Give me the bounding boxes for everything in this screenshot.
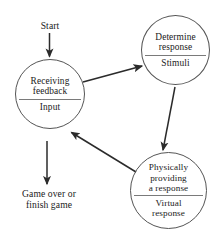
- diagram-canvas: Start Receiving feedback Input Determine…: [0, 0, 224, 248]
- arrow-receiving-to-determine: [83, 66, 142, 82]
- node-receiving-feedback-title-line1: Receiving: [16, 76, 84, 87]
- node-receiving-feedback-title-line2: feedback: [16, 86, 84, 97]
- node-determine-response[interactable]: Determine response Stimuli: [141, 15, 210, 85]
- node-determine-response-title-line2: response: [142, 42, 209, 53]
- node-receiving-feedback-divider: [19, 99, 81, 100]
- node-physically-providing-a-response[interactable]: Physically providing a response Virtual …: [130, 152, 207, 229]
- node-physical-response-title-line2: providing: [131, 173, 206, 183]
- node-physical-response-title-line1: Physically: [131, 162, 206, 172]
- node-determine-response-title: Determine response: [142, 32, 209, 54]
- node-physical-response-subtitle-line1: Virtual: [131, 198, 206, 208]
- node-physical-response-title: Physically providing a response: [131, 162, 206, 194]
- label-start: Start: [20, 20, 80, 31]
- node-physical-response-divider: [134, 195, 203, 196]
- node-receiving-feedback-subtitle: Input: [16, 101, 84, 113]
- node-determine-response-divider: [145, 55, 206, 56]
- node-determine-response-title-line1: Determine: [142, 32, 209, 43]
- label-game-over-line2: finish game: [2, 199, 96, 210]
- label-game-over: Game over or finish game: [2, 188, 96, 210]
- node-physical-response-title-line3: a response: [131, 183, 206, 193]
- arrow-physical-to-receiving: [72, 133, 137, 173]
- node-physical-response-subtitle: Virtual response: [131, 197, 206, 219]
- node-physical-response-subtitle-line2: response: [131, 208, 206, 218]
- arrow-determine-to-physical: [163, 87, 175, 150]
- node-determine-response-subtitle: Stimuli: [142, 57, 209, 69]
- node-receiving-feedback-title: Receiving feedback: [16, 76, 84, 98]
- label-game-over-line1: Game over or: [2, 188, 96, 199]
- node-receiving-feedback[interactable]: Receiving feedback Input: [15, 59, 85, 129]
